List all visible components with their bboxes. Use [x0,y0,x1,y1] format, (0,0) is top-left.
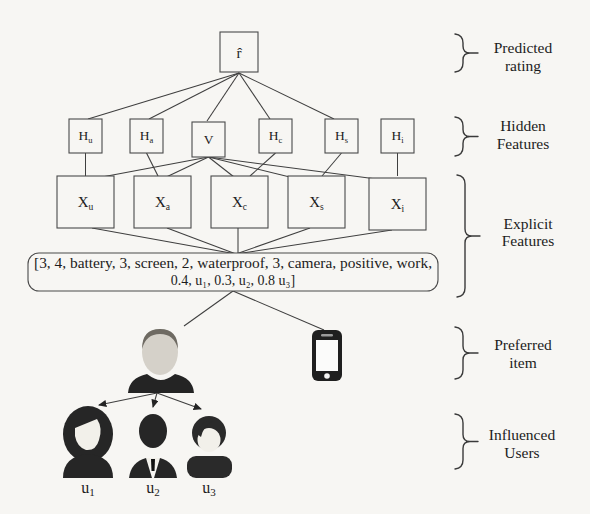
node-predicted-rating: r̂ [220,32,258,72]
svg-text:Influenced: Influenced [489,426,556,443]
svg-text:Users: Users [504,444,539,461]
woman-silhouette-icon [63,406,113,478]
brace-influenced-users [455,414,478,469]
edges-vector-to-items [184,291,324,330]
svg-text:V: V [204,132,214,147]
user3-label: u3 [202,479,216,498]
side-label-preferred-item: Preferred item [494,336,552,371]
node-hidden-v: V [192,122,225,157]
edges-user-influence-arrows [99,393,201,409]
side-label-hidden-features: Hidden Features [497,117,550,152]
phone-home-button [324,373,330,379]
side-label-influenced-users: Influenced Users [489,426,556,461]
brace-predicted-rating [455,34,478,72]
edges-explicit-to-vector [92,228,392,254]
svg-text:Preferred: Preferred [494,336,552,353]
svg-text:Hidden: Hidden [500,117,546,134]
node-explicit-xs: Xs [288,176,345,228]
phone-speaker [321,334,333,337]
feature-vector-line1: [3, 4, battery, 3, screen, 2, waterproof… [34,256,432,271]
edges-predicted-to-hidden [88,73,334,121]
brace-preferred-item [455,327,478,379]
side-label-predicted-rating: Predicted rating [494,39,553,74]
svg-text:Features: Features [502,232,555,249]
figure-diagram: r̂ Hu Ha V Hc Hs Hi [0,0,590,514]
node-hidden-hu: Hu [69,119,102,153]
side-label-explicit-features: Explicit Features [502,215,555,249]
node-explicit-xi: Xi [369,178,426,230]
user1-label: u1 [81,479,95,498]
feature-vector-line2: 0.4, u₁, 0.3, u₂, 0.8 u₃] [171,273,295,288]
smartphone-icon [312,330,342,381]
brace-hidden-features [455,117,478,156]
person-short-hair-icon [187,416,232,478]
node-explicit-xu: Xu [57,176,114,228]
man-suit-silhouette-icon [129,414,177,478]
node-hidden-hs: Hs [325,119,358,153]
node-explicit-xc: Xc [211,176,268,228]
svg-text:Features: Features [497,135,550,152]
user2-label: u2 [146,479,160,498]
brace-explicit-features [457,175,480,297]
feature-vector-box: [3, 4, battery, 3, screen, 2, waterproof… [28,253,438,291]
svg-text:Explicit: Explicit [503,215,553,232]
person-silhouette-icon [128,329,194,393]
node-explicit-xa: Xa [134,176,191,228]
svg-text:rating: rating [505,57,541,74]
svg-text:Predicted: Predicted [494,39,553,56]
svg-text:item: item [509,354,537,371]
node-hidden-ha: Ha [130,119,163,153]
node-hidden-hi: Hi [381,119,414,153]
node-hidden-hc: Hc [259,119,292,153]
